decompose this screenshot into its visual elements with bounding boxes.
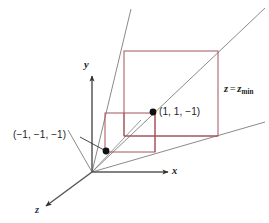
axis-label-x: x bbox=[172, 166, 177, 177]
projection-ray-top-left bbox=[92, 9, 131, 172]
coordinate-axes bbox=[46, 76, 168, 206]
figure-canvas bbox=[0, 0, 269, 223]
axis-label-z: z bbox=[35, 205, 39, 216]
axis-label-y: y bbox=[84, 60, 89, 71]
near-clipping-plane bbox=[105, 113, 218, 152]
near-corner-label: (−1, −1, −1) bbox=[13, 130, 66, 140]
axis-z-line bbox=[46, 172, 92, 206]
projection-ray-bottom-left bbox=[68, 130, 92, 172]
far-corner-point bbox=[150, 109, 157, 116]
perspective-frustum-figure: y x z (1, 1, −1) (−1, −1, −1) z=zmin bbox=[0, 0, 269, 223]
far-corner-label: (1, 1, −1) bbox=[159, 107, 200, 117]
far-plane-label: z=zmin bbox=[224, 84, 253, 95]
far-plane-label-equals: = bbox=[228, 83, 237, 94]
far-plane-label-subscript: min bbox=[241, 88, 253, 96]
near-corner-point bbox=[103, 148, 110, 155]
corner-points bbox=[103, 109, 157, 155]
projection-ray-inner-guide bbox=[92, 120, 141, 172]
